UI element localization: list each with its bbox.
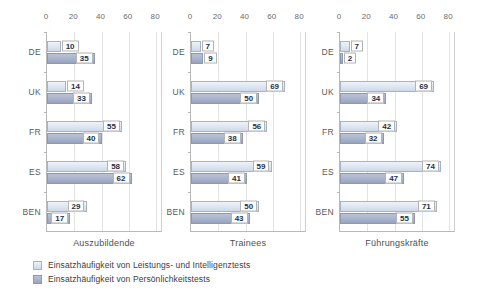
x-axis-tick-label: 80 bbox=[151, 12, 160, 21]
y-axis-tick-mark bbox=[188, 32, 191, 33]
bar-value-label: 7 bbox=[202, 41, 214, 52]
y-axis-tick-mark bbox=[188, 192, 191, 193]
bar-light-de bbox=[47, 41, 61, 52]
y-axis-tick-mark bbox=[188, 72, 191, 73]
bar-value-label: 33 bbox=[73, 93, 90, 104]
legend-swatch-icon bbox=[33, 261, 42, 270]
x-axis-tick-label: 20 bbox=[69, 12, 78, 21]
bar-value-label: 55 bbox=[103, 121, 120, 132]
legend-item-label: Einsatzhäufigkeit von Persönlichkeitstes… bbox=[48, 274, 210, 284]
x-axis-tick-label: 0 bbox=[188, 12, 193, 21]
bar-dark-de bbox=[191, 53, 203, 64]
y-axis-category-label: DE bbox=[29, 47, 41, 57]
bar-value-label: 14 bbox=[67, 81, 84, 92]
category-group-de: DE79 bbox=[191, 32, 305, 72]
category-group-fr: FR4232 bbox=[340, 112, 454, 152]
x-axis-tick-labels: 020406080 bbox=[339, 12, 455, 28]
y-axis-tick-mark bbox=[337, 112, 340, 113]
category-group-es: ES5941 bbox=[191, 152, 305, 192]
y-axis-category-label: DE bbox=[173, 47, 185, 57]
plot-area: DE79UK6950FR5638ES5941BEN5043 bbox=[190, 32, 306, 232]
bar-value-label: 47 bbox=[385, 173, 402, 184]
y-axis-category-label: UK bbox=[322, 87, 334, 97]
bar-value-label: 55 bbox=[396, 213, 413, 224]
bar-value-label: 62 bbox=[113, 173, 130, 184]
bar-value-label: 59 bbox=[253, 161, 270, 172]
bar-value-label: 50 bbox=[240, 93, 257, 104]
y-axis-category-label: UK bbox=[173, 87, 185, 97]
x-axis-tick-labels: 020406080 bbox=[46, 12, 162, 28]
category-group-es: ES7447 bbox=[340, 152, 454, 192]
y-axis-category-label: BEN bbox=[23, 207, 41, 217]
plot-area: DE72UK6934FR4232ES7447BEN7155 bbox=[339, 32, 455, 232]
legend-item-label: Einsatzhäufigkeit von Leistungs- und Int… bbox=[48, 260, 250, 270]
y-axis-category-label: FR bbox=[29, 127, 41, 137]
grouped-bar-chart-figure: 020406080DE1035UK1433FR5540ES5862BEN2917… bbox=[0, 0, 488, 293]
bar-value-label: 34 bbox=[367, 93, 384, 104]
y-axis-category-label: ES bbox=[322, 167, 334, 177]
y-axis-category-label: BEN bbox=[316, 207, 334, 217]
chart-panel-3: 020406080DE72UK6934FR4232ES7447BEN7155Fü… bbox=[318, 12, 476, 257]
y-axis-tick-mark bbox=[337, 152, 340, 153]
y-axis-tick-mark bbox=[188, 112, 191, 113]
bar-value-label: 32 bbox=[365, 133, 382, 144]
y-axis-category-label: FR bbox=[322, 127, 334, 137]
bar-value-label: 38 bbox=[224, 133, 241, 144]
category-group-ben: BEN2917 bbox=[47, 192, 161, 232]
category-group-fr: FR5540 bbox=[47, 112, 161, 152]
bar-value-label: 71 bbox=[418, 201, 435, 212]
y-axis-tick-mark bbox=[44, 72, 47, 73]
x-axis-tick-label: 40 bbox=[240, 12, 249, 21]
y-axis-tick-mark bbox=[337, 72, 340, 73]
bar-value-label: 9 bbox=[204, 53, 216, 64]
x-axis-tick-label: 20 bbox=[362, 12, 371, 21]
panel-caption: Führungskräfte bbox=[339, 238, 455, 248]
x-axis-tick-label: 60 bbox=[416, 12, 425, 21]
bar-light-de bbox=[340, 41, 350, 52]
chart-legend: Einsatzhäufigkeit von Leistungs- und Int… bbox=[33, 259, 250, 287]
bar-value-label: 69 bbox=[415, 81, 432, 92]
x-axis-tick-label: 40 bbox=[96, 12, 105, 21]
bar-value-label: 2 bbox=[344, 53, 356, 64]
bar-dark-de bbox=[340, 53, 343, 64]
y-axis-tick-mark bbox=[188, 152, 191, 153]
bar-value-label: 58 bbox=[107, 161, 124, 172]
legend-item-1[interactable]: Einsatzhäufigkeit von Leistungs- und Int… bbox=[33, 259, 250, 271]
y-axis-tick-mark bbox=[44, 192, 47, 193]
x-axis-tick-label: 60 bbox=[123, 12, 132, 21]
category-group-uk: UK6934 bbox=[340, 72, 454, 112]
chart-panel-2: 020406080DE79UK6950FR5638ES5941BEN5043Tr… bbox=[170, 12, 318, 257]
category-group-de: DE72 bbox=[340, 32, 454, 72]
y-axis-category-label: ES bbox=[29, 167, 41, 177]
legend-swatch-icon bbox=[33, 275, 42, 284]
category-group-ben: BEN5043 bbox=[191, 192, 305, 232]
bar-value-label: 40 bbox=[83, 133, 100, 144]
y-axis-tick-mark bbox=[44, 112, 47, 113]
bar-value-label: 42 bbox=[378, 121, 395, 132]
category-group-de: DE1035 bbox=[47, 32, 161, 72]
x-axis-tick-label: 0 bbox=[337, 12, 342, 21]
legend-item-2[interactable]: Einsatzhäufigkeit von Persönlichkeitstes… bbox=[33, 273, 250, 285]
bar-light-uk bbox=[47, 81, 66, 92]
bar-value-label: 29 bbox=[68, 201, 85, 212]
x-axis-tick-labels: 020406080 bbox=[190, 12, 306, 28]
category-group-es: ES5862 bbox=[47, 152, 161, 192]
x-axis-tick-label: 60 bbox=[267, 12, 276, 21]
panel-caption: Trainees bbox=[190, 238, 306, 248]
bar-value-label: 10 bbox=[62, 41, 79, 52]
y-axis-category-label: FR bbox=[173, 127, 185, 137]
y-axis-category-label: UK bbox=[29, 87, 41, 97]
bar-value-label: 41 bbox=[228, 173, 245, 184]
panel-caption: Auszubildende bbox=[46, 238, 162, 248]
y-axis-tick-mark bbox=[44, 152, 47, 153]
y-axis-category-label: ES bbox=[173, 167, 185, 177]
bar-value-label: 43 bbox=[231, 213, 248, 224]
y-axis-tick-mark bbox=[337, 32, 340, 33]
bar-value-label: 50 bbox=[240, 201, 257, 212]
bar-light-de bbox=[191, 41, 201, 52]
chart-panels-container: 020406080DE1035UK1433FR5540ES5862BEN2917… bbox=[0, 12, 488, 257]
y-axis-tick-mark bbox=[337, 192, 340, 193]
chart-panel-1: 020406080DE1035UK1433FR5540ES5862BEN2917… bbox=[0, 12, 170, 257]
bar-value-label: 69 bbox=[266, 81, 283, 92]
category-group-ben: BEN7155 bbox=[340, 192, 454, 232]
